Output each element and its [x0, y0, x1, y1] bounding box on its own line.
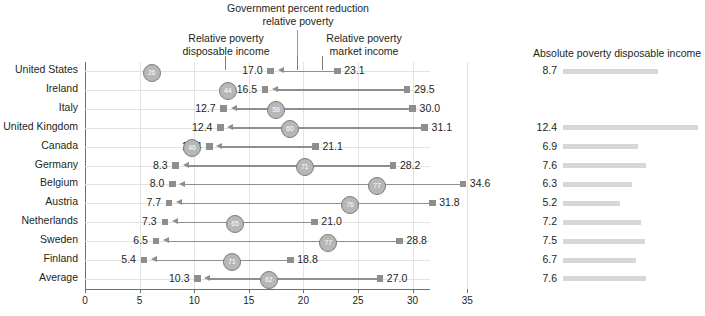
- marker-disposable-income: [172, 162, 179, 169]
- chart-row: Finland5.418.8716.7: [0, 251, 705, 270]
- bar-absolute-poverty: [563, 144, 638, 149]
- row-connector: [183, 184, 462, 186]
- legend-label-disposable-income-line-2: disposable income: [168, 45, 284, 58]
- value-label-absolute-poverty: 6.7: [533, 253, 557, 265]
- marker-market-income: [377, 275, 384, 282]
- reduction-percent-badge: 26: [143, 64, 161, 82]
- value-label-market-income: 34.6: [470, 177, 490, 189]
- reduction-arrow-icon: [163, 237, 169, 243]
- chart-title-line-2: relative poverty: [178, 15, 418, 28]
- marker-market-income: [312, 143, 319, 150]
- row-category-label: Average: [0, 271, 78, 283]
- reduction-percent-badge: 60: [281, 120, 299, 138]
- row-connector: [187, 165, 393, 167]
- bar-absolute-poverty: [563, 125, 698, 130]
- reduction-arrow-icon: [151, 256, 157, 262]
- reduction-arrow-icon: [216, 143, 222, 149]
- row-category-label: Canada: [0, 139, 78, 151]
- reduction-arrow-icon: [172, 218, 178, 224]
- value-label-market-income: 28.8: [406, 234, 426, 246]
- marker-disposable-income: [267, 68, 274, 75]
- reduction-arrow-icon: [176, 199, 182, 205]
- value-label-disposable-income: 10.3: [169, 272, 189, 284]
- marker-disposable-income: [153, 238, 160, 245]
- chart-row: Canada11.421.1466.9: [0, 138, 705, 157]
- value-label-absolute-poverty: 7.5: [533, 234, 557, 246]
- row-category-label: Germany: [0, 158, 78, 170]
- reduction-arrow-icon: [227, 124, 233, 130]
- marker-market-income: [429, 200, 436, 207]
- row-connector: [282, 71, 338, 73]
- value-label-disposable-income: 6.5: [133, 234, 148, 246]
- bar-absolute-poverty: [563, 276, 646, 281]
- value-label-market-income: 23.1: [344, 64, 364, 76]
- row-category-label: Netherlands: [0, 214, 78, 226]
- row-connector: [176, 222, 315, 224]
- reduction-arrow-icon: [231, 105, 237, 111]
- value-label-market-income: 31.8: [439, 196, 459, 208]
- value-label-market-income: 28.2: [400, 159, 420, 171]
- row-category-label: United States: [0, 63, 78, 75]
- value-label-market-income: 30.0: [420, 102, 440, 114]
- marker-disposable-income: [166, 200, 173, 207]
- reduction-percent-badge: 77: [319, 234, 337, 252]
- chart-row: Italy12.730.058: [0, 100, 705, 119]
- reduction-percent-badge: 44: [219, 82, 237, 100]
- value-label-absolute-poverty: 5.2: [533, 196, 557, 208]
- value-label-disposable-income: 17.0: [242, 64, 262, 76]
- reduction-percent-badge: 65: [226, 215, 244, 233]
- value-label-disposable-income: 8.0: [150, 177, 165, 189]
- bar-absolute-poverty: [563, 220, 641, 225]
- row-connector: [167, 241, 400, 243]
- row-connector: [231, 127, 424, 129]
- poverty-comparison-chart: Government percent reduction relative po…: [0, 0, 705, 316]
- value-label-absolute-poverty: 6.3: [533, 177, 557, 189]
- reduction-percent-badge: 76: [341, 196, 359, 214]
- row-connector: [276, 89, 407, 91]
- marker-market-income: [311, 219, 318, 226]
- x-tick-label: 20: [298, 295, 309, 306]
- marker-disposable-income: [162, 219, 169, 226]
- row-connector: [180, 203, 432, 205]
- value-label-market-income: 31.1: [432, 121, 452, 133]
- value-label-market-income: 21.0: [321, 215, 341, 227]
- row-category-label: Finland: [0, 252, 78, 264]
- reduction-arrow-icon: [204, 275, 210, 281]
- reduction-arrow-icon: [179, 181, 185, 187]
- row-category-label: Belgium: [0, 176, 78, 188]
- marker-market-income: [404, 86, 411, 93]
- row-connector: [220, 146, 315, 148]
- chart-row: United States17.023.1268.7: [0, 62, 705, 81]
- value-label-disposable-income: 16.5: [237, 83, 257, 95]
- chart-title: Government percent reduction relative po…: [178, 2, 418, 27]
- legend-label-market-income-line-1: Relative poverty: [306, 32, 422, 45]
- value-label-absolute-poverty: 7.6: [533, 159, 557, 171]
- marker-disposable-income: [220, 105, 227, 112]
- chart-row: Netherlands7.321.0657.2: [0, 213, 705, 232]
- reduction-arrow-icon: [278, 67, 284, 73]
- chart-row: Austria7.731.8765.2: [0, 194, 705, 213]
- marker-market-income: [334, 68, 341, 75]
- x-tick-label: 10: [189, 295, 200, 306]
- value-label-disposable-income: 12.7: [195, 102, 215, 114]
- value-label-market-income: 21.1: [322, 140, 342, 152]
- absolute-poverty-panel-title: Absolute poverty disposable income: [533, 47, 701, 59]
- row-connector: [208, 278, 379, 280]
- value-label-absolute-poverty: 8.7: [533, 64, 557, 76]
- marker-market-income: [390, 162, 397, 169]
- chart-row: Average10.327.0627.6: [0, 270, 705, 289]
- x-axis-line: [85, 289, 430, 290]
- x-tick-mark: [249, 289, 250, 293]
- row-category-label: Sweden: [0, 233, 78, 245]
- reduction-arrow-icon: [183, 162, 189, 168]
- legend-label-disposable-income-line-1: Relative poverty: [168, 32, 284, 45]
- marker-disposable-income: [262, 86, 269, 93]
- marker-disposable-income: [194, 275, 201, 282]
- x-tick-mark: [140, 289, 141, 293]
- x-tick-mark: [194, 289, 195, 293]
- x-tick-mark: [303, 289, 304, 293]
- value-label-disposable-income: 7.3: [142, 215, 157, 227]
- marker-disposable-income: [206, 143, 213, 150]
- value-label-disposable-income: 7.7: [146, 196, 161, 208]
- value-label-absolute-poverty: 7.2: [533, 215, 557, 227]
